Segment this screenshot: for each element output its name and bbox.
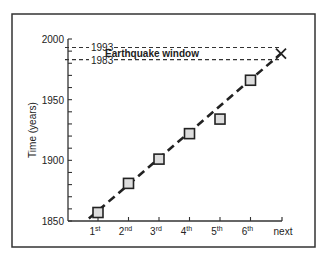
y-tick-label: 1900: [42, 155, 65, 166]
chart-figure: 18501900195020001st2nd3rd4th5th6thnext 1…: [0, 0, 328, 258]
data-point-square: [215, 114, 225, 124]
data-point-square: [154, 154, 164, 164]
y-tick-label: 2000: [42, 34, 65, 45]
data-point-square: [124, 178, 134, 188]
y-tick-label: 1950: [42, 95, 65, 106]
x-tick-label: next: [274, 226, 293, 237]
earthquake-window-label: Earthquake window: [105, 48, 199, 59]
y-axis-label: Time (years): [27, 102, 38, 158]
data-point-square: [185, 129, 195, 139]
data-point-square: [93, 208, 103, 218]
data-point-square: [246, 75, 256, 85]
y-tick-label: 1850: [42, 216, 65, 227]
